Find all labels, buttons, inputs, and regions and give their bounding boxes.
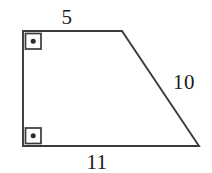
right-angle-dot-bottom-left <box>31 133 36 138</box>
bottom-side-length-label: 11 <box>86 152 107 173</box>
slanted-right-side-length-label: 10 <box>173 72 195 93</box>
right-angle-dot-top-left <box>31 39 36 44</box>
geometry-figure: 5 10 11 <box>0 0 212 173</box>
top-side-length-label: 5 <box>62 7 73 28</box>
